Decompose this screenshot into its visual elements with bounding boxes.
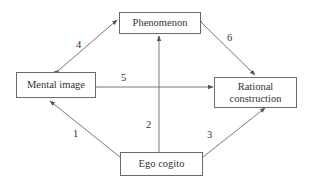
edge-label-3: 3 — [207, 129, 212, 140]
node-ego-cogito-label: Ego cogito — [139, 158, 185, 170]
node-rational-construction-label-line1: Rational — [238, 81, 274, 93]
node-rational-construction: Rational construction — [214, 77, 297, 108]
node-mental-image: Mental image — [16, 72, 96, 98]
node-phenomenon-label: Phenomenon — [133, 17, 188, 29]
node-mental-image-label: Mental image — [27, 79, 85, 91]
edge-4-arrow — [59, 20, 117, 70]
edge-1-arrow — [50, 101, 120, 157]
edge-6-arrow — [202, 23, 255, 75]
node-phenomenon: Phenomenon — [119, 12, 201, 34]
edge-label-2: 2 — [146, 119, 151, 130]
node-ego-cogito: Ego cogito — [120, 152, 203, 176]
edge-label-1: 1 — [73, 128, 78, 139]
edge-label-4: 4 — [76, 39, 81, 50]
edge-label-6: 6 — [227, 32, 232, 43]
edge-3-arrow — [203, 108, 265, 157]
edge-label-5: 5 — [121, 72, 126, 83]
node-rational-construction-label-line2: construction — [230, 93, 282, 105]
